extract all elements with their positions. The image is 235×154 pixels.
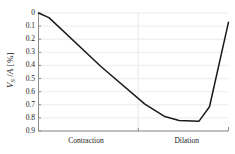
plot-area xyxy=(0,0,235,154)
axis-ticks xyxy=(39,13,139,131)
chart-figure: VS /A [%] 00.10.20.30.40.50.60.70.80.9 C… xyxy=(0,0,235,154)
grid-lines xyxy=(39,13,229,131)
axis-lines xyxy=(39,12,229,131)
